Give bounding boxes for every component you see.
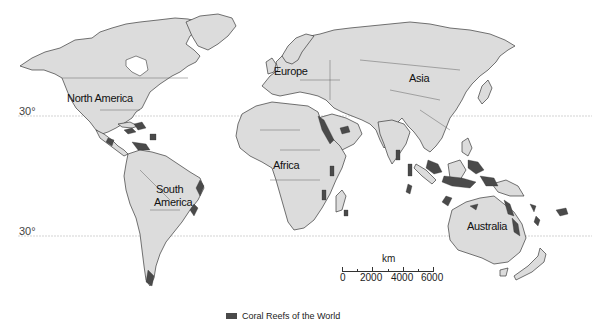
scale-tick-0: 0 <box>340 272 346 283</box>
label-north-america: North America <box>67 92 133 104</box>
scale-tick-6000: 6000 <box>421 272 443 283</box>
label-europe: Europe <box>274 65 308 77</box>
label-asia: Asia <box>409 72 429 84</box>
japan-islands <box>478 80 492 104</box>
scale-unit: km <box>382 253 395 264</box>
scale-tick-2000: 2000 <box>360 272 382 283</box>
scale-bar: km 0 2000 4000 6000 <box>338 253 438 283</box>
north-america-landmass <box>20 18 200 134</box>
latitude-label-30s: 30° <box>19 225 36 237</box>
latitude-label-30n: 30° <box>19 105 36 117</box>
new-guinea-island <box>492 180 524 196</box>
legend-label: Coral Reefs of the World <box>242 311 340 321</box>
label-south-america-line1: South <box>156 183 183 195</box>
legend: Coral Reefs of the World <box>226 311 340 321</box>
south-america-landmass <box>124 150 204 286</box>
legend-swatch-reef <box>226 313 237 319</box>
label-south-america-line2: America <box>154 196 192 208</box>
greenland-landmass <box>186 14 236 50</box>
tasmania-island <box>500 268 508 276</box>
label-africa: Africa <box>273 159 299 171</box>
label-australia: Australia <box>467 220 507 232</box>
madagascar-island <box>336 190 346 212</box>
scale-tick-4000: 4000 <box>391 272 413 283</box>
philippines-islands <box>462 138 472 156</box>
